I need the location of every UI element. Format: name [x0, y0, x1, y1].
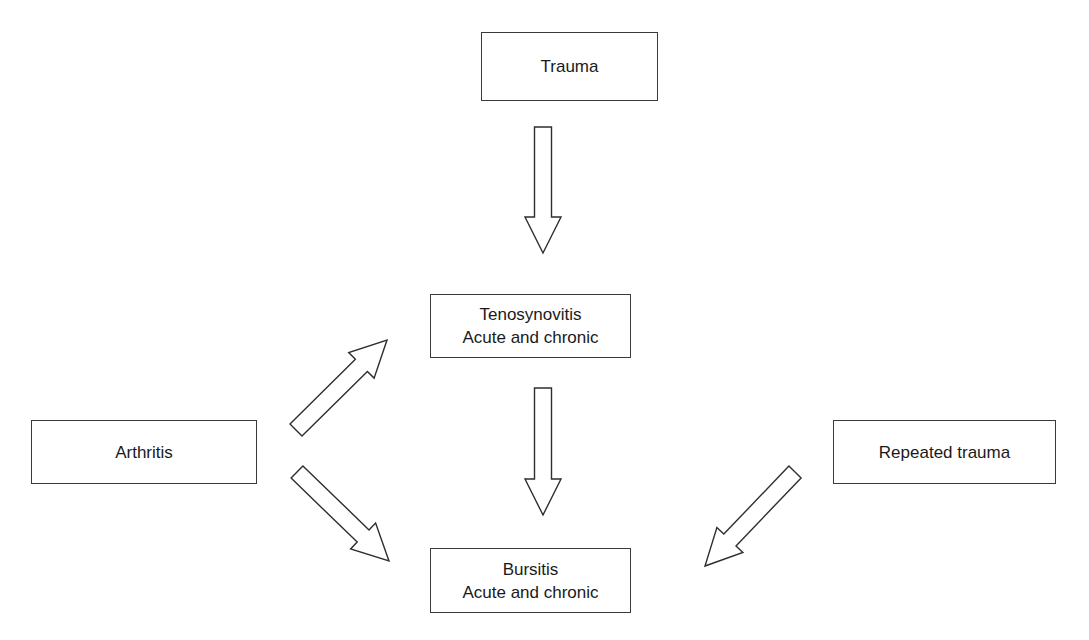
node-tenosynovitis-subtitle: Acute and chronic	[462, 326, 598, 349]
node-repeated-trauma: Repeated trauma	[833, 420, 1056, 484]
node-tenosynovitis-title: Tenosynovitis	[479, 303, 581, 326]
node-bursitis: Bursitis Acute and chronic	[430, 548, 631, 613]
arrow-tenosynovitis-to-bursitis	[525, 388, 561, 515]
arrow-arthritis-to-bursitis	[291, 466, 389, 561]
arrow-arthritis-to-tenosynovitis	[290, 340, 387, 436]
node-bursitis-subtitle: Acute and chronic	[462, 581, 598, 604]
node-tenosynovitis: Tenosynovitis Acute and chronic	[430, 294, 631, 358]
arrow-repeated-trauma-to-bursitis	[705, 466, 801, 566]
node-bursitis-title: Bursitis	[503, 558, 559, 581]
node-trauma-label: Trauma	[541, 55, 599, 78]
node-repeated-trauma-label: Repeated trauma	[879, 441, 1010, 464]
node-arthritis-label: Arthritis	[115, 441, 173, 464]
arrow-trauma-to-tenosynovitis	[525, 127, 561, 253]
node-trauma: Trauma	[481, 32, 658, 101]
node-arthritis: Arthritis	[31, 420, 257, 484]
